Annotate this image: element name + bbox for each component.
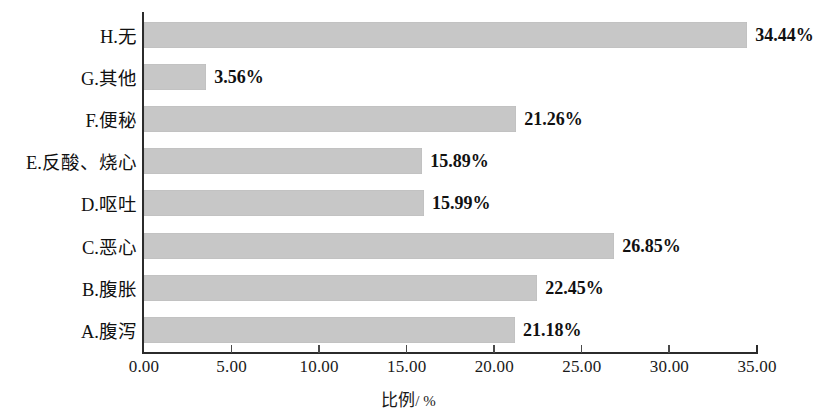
bar-row: A.腹泻21.18% bbox=[0, 309, 817, 350]
category-label: H.无 bbox=[100, 22, 137, 48]
bar bbox=[144, 148, 422, 174]
bar-value-label: 22.45% bbox=[545, 277, 604, 298]
x-axis-start-cap bbox=[142, 345, 144, 353]
bar bbox=[144, 190, 424, 216]
x-axis-tick bbox=[231, 345, 233, 353]
bar bbox=[144, 106, 516, 132]
bar-row: F.便秘21.26% bbox=[0, 98, 817, 139]
bar-value-label: 34.44% bbox=[755, 24, 814, 45]
category-label: G.其他 bbox=[81, 64, 137, 90]
x-axis-tick bbox=[493, 345, 495, 353]
x-axis-tick-label: 10.00 bbox=[300, 357, 339, 377]
x-axis-tick-label: 15.00 bbox=[387, 357, 426, 377]
category-label: E.反酸、烧心 bbox=[26, 148, 137, 174]
category-label: B.腹胀 bbox=[82, 275, 137, 301]
bar-value-label: 26.85% bbox=[622, 235, 681, 256]
bar-row: E.反酸、烧心15.89% bbox=[0, 141, 817, 182]
x-axis-line bbox=[142, 352, 758, 354]
x-axis-tick bbox=[581, 345, 583, 353]
x-axis-tick-label: 0.00 bbox=[129, 357, 160, 377]
bar bbox=[144, 22, 747, 48]
bar-row: B.腹胀22.45% bbox=[0, 267, 817, 308]
bar bbox=[144, 233, 614, 259]
category-label: F.便秘 bbox=[86, 106, 137, 132]
bar bbox=[144, 317, 515, 343]
x-axis-tick-label: 25.00 bbox=[562, 357, 601, 377]
bar bbox=[144, 64, 206, 90]
x-axis-tick-label: 35.00 bbox=[737, 357, 776, 377]
bar-row: H.无34.44% bbox=[0, 14, 817, 55]
bar-value-label: 21.18% bbox=[523, 319, 582, 340]
bar-value-label: 15.89% bbox=[430, 151, 489, 172]
y-axis-line bbox=[142, 12, 144, 353]
x-axis-title: 比例/ % bbox=[0, 386, 817, 411]
bar-row: G.其他3.56% bbox=[0, 56, 817, 97]
bar-chart: H.无34.44%G.其他3.56%F.便秘21.26%E.反酸、烧心15.89… bbox=[0, 0, 817, 416]
x-axis-tick-label: 5.00 bbox=[216, 357, 247, 377]
x-axis-tick bbox=[318, 345, 320, 353]
bar-row: C.恶心26.85% bbox=[0, 225, 817, 266]
x-axis-tick bbox=[668, 345, 670, 353]
x-axis-tick-label: 20.00 bbox=[475, 357, 514, 377]
category-label: A.腹泻 bbox=[81, 317, 137, 343]
bar-value-label: 21.26% bbox=[524, 108, 583, 129]
x-axis-title-unit: / % bbox=[415, 393, 435, 409]
bar bbox=[144, 275, 537, 301]
x-axis-end-cap bbox=[756, 345, 758, 353]
x-axis-tick-label: 30.00 bbox=[650, 357, 689, 377]
x-axis-tick bbox=[406, 345, 408, 353]
bar-value-label: 3.56% bbox=[214, 66, 264, 87]
x-axis-title-text: 比例 bbox=[381, 391, 415, 410]
category-label: D.呕吐 bbox=[81, 190, 137, 216]
bar-value-label: 15.99% bbox=[432, 193, 491, 214]
category-label: C.恶心 bbox=[82, 233, 137, 259]
bar-row: D.呕吐15.99% bbox=[0, 183, 817, 224]
